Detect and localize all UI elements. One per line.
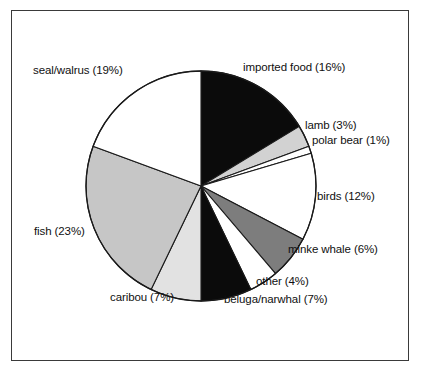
pie-chart-figure: imported food (16%) lamb (3%) polar bear… bbox=[0, 0, 422, 374]
slice-label-seal-walrus: seal/walrus (19%) bbox=[33, 64, 123, 76]
slice-label-caribou: caribou (7%) bbox=[110, 291, 174, 303]
pie-chart-svg bbox=[0, 0, 422, 374]
slice-label-imported-food: imported food (16%) bbox=[243, 61, 345, 73]
pie-slice-group bbox=[86, 71, 316, 301]
slice-label-other: other (4%) bbox=[256, 275, 309, 287]
slice-label-beluga-narwhal: beluga/narwhal (7%) bbox=[224, 293, 328, 305]
slice-label-minke-whale: minke whale (6%) bbox=[288, 243, 378, 255]
slice-label-polar-bear: polar bear (1%) bbox=[312, 134, 390, 146]
slice-label-fish: fish (23%) bbox=[34, 225, 85, 237]
slice-label-birds: birds (12%) bbox=[317, 190, 375, 202]
slice-label-lamb: lamb (3%) bbox=[305, 119, 357, 131]
